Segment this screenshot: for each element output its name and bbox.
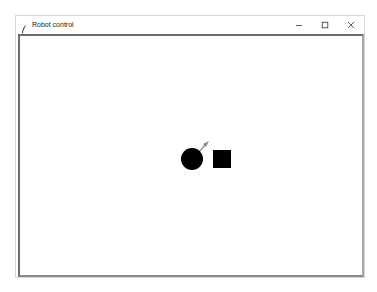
robot-body: [181, 148, 203, 170]
minimize-button[interactable]: [286, 16, 312, 34]
robot-canvas[interactable]: [18, 34, 364, 277]
canvas-drawing: [20, 36, 364, 279]
robot: [181, 141, 209, 170]
title-bar[interactable]: Robot control: [16, 16, 364, 34]
target-square: [213, 150, 231, 168]
robot-control-window: Robot control: [15, 15, 365, 278]
close-button[interactable]: [338, 16, 364, 34]
feather-icon: [21, 20, 27, 30]
window-title: Robot control: [32, 19, 74, 31]
minimize-icon: [295, 21, 303, 29]
maximize-button[interactable]: [312, 16, 338, 34]
maximize-icon: [321, 21, 329, 29]
close-icon: [347, 21, 355, 29]
